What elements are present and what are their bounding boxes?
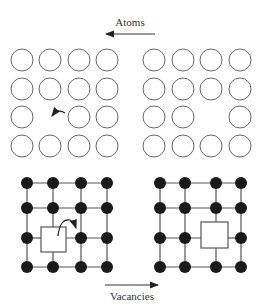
diffusion-diagram xyxy=(0,0,259,305)
atom-hop-arrow-icon xyxy=(52,111,65,116)
vacancy-box xyxy=(41,227,66,252)
vacancy-before-panel xyxy=(21,177,113,273)
atoms-after-panel xyxy=(143,49,251,157)
atoms-before-panel xyxy=(11,49,118,157)
vacancy-box xyxy=(201,222,228,248)
vacancy-after-panel xyxy=(154,177,247,273)
